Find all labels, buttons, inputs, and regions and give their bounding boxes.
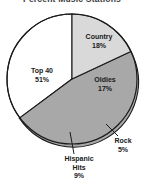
slice-label-oldies-name: Oldies (94, 76, 115, 83)
slice-label-top-40-percent: 51% (20, 76, 64, 85)
slice-label-oldies-percent: 17% (84, 85, 126, 94)
slice-label-country: Country 18% (76, 33, 122, 50)
pie-chart-figure: Percent Music Stations Top 40 51% Countr… (0, 0, 144, 186)
slice-label-top-40: Top 40 51% (20, 67, 64, 84)
slice-label-top-40-name: Top 40 (31, 67, 53, 74)
slice-label-hispanic-hits-name: Hispanic (64, 155, 93, 162)
slice-label-country-name: Country (86, 33, 113, 40)
slice-label-rock-percent: 5% (108, 146, 138, 155)
slice-label-hispanic-hits: Hispanic Hits 9% (56, 155, 102, 181)
slice-label-rock: Rock 5% (108, 137, 138, 154)
slice-label-oldies: Oldies 17% (84, 76, 126, 93)
slice-label-hispanic-hits-percent: 9% (56, 172, 102, 181)
slice-label-rock-name: Rock (114, 137, 131, 144)
slice-label-country-percent: 18% (76, 42, 122, 51)
slice-label-hispanic-hits-name2: Hits (56, 164, 102, 173)
